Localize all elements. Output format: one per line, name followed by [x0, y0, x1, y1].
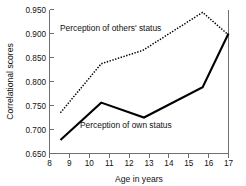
x-axis-title: Age in years	[115, 174, 163, 184]
y-tick-label: 0.950	[26, 6, 47, 15]
y-axis-tick-labels: 0.950 0.900 0.850 0.800 0.750 0.700 0.65…	[26, 6, 47, 159]
annotation-others-status: Perception of others' status	[60, 23, 161, 33]
x-tick-label: 15	[184, 159, 194, 168]
x-axis-ticks	[50, 154, 229, 158]
chart-figure: 0.950 0.900 0.850 0.800 0.750 0.700 0.65…	[0, 0, 246, 186]
y-tick-label: 0.800	[26, 78, 47, 87]
x-tick-label: 12	[125, 159, 135, 168]
x-tick-label: 9	[67, 159, 72, 168]
y-axis-ticks	[50, 10, 54, 154]
x-tick-label: 8	[47, 159, 52, 168]
y-tick-label: 0.750	[26, 102, 47, 111]
x-tick-label: 16	[204, 159, 214, 168]
x-tick-label: 17	[224, 159, 234, 168]
y-axis-title: Correlational scores	[5, 43, 15, 119]
y-tick-label: 0.900	[26, 30, 47, 39]
line-chart: 0.950 0.900 0.850 0.800 0.750 0.700 0.65…	[0, 0, 246, 186]
x-tick-label: 10	[85, 159, 95, 168]
x-tick-label: 11	[105, 159, 114, 168]
y-tick-label: 0.850	[26, 54, 47, 63]
x-tick-label: 14	[164, 159, 174, 168]
annotation-own-status: Perception of own status	[80, 120, 172, 130]
x-tick-label: 13	[144, 159, 154, 168]
y-tick-label: 0.650	[26, 150, 47, 159]
x-axis-tick-labels: 8 9 10 11 12 13 14 15 16 17	[47, 159, 233, 168]
y-tick-label: 0.700	[26, 126, 47, 135]
